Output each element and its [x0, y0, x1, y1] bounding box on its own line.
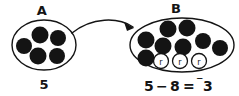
counter-dot [179, 20, 196, 37]
diagram-canvas: A 5 B [0, 0, 239, 96]
set-b-removed-counters: r r r [154, 54, 207, 69]
counter-dot [175, 39, 192, 56]
removed-counter: r [192, 54, 207, 69]
removed-counter: r [173, 54, 188, 69]
counter-dot [138, 32, 155, 49]
counter-dot [16, 38, 32, 54]
counter-dot [155, 38, 172, 55]
counter-dot [160, 21, 177, 38]
counter-dot [212, 40, 228, 56]
integer-subtraction-diagram: A 5 B [0, 0, 239, 96]
equation-operator: − [156, 78, 168, 94]
set-a-group: A 5 [12, 3, 76, 92]
equation-equals: = [183, 78, 195, 94]
equation-subtrahend: 8 [170, 78, 180, 94]
counter-dot [49, 48, 65, 64]
set-b-group: B r r [130, 1, 234, 72]
counter-dot [30, 48, 47, 65]
equation: 5 − 8 = ⁻ 3 [144, 73, 213, 94]
transfer-arrow [72, 20, 134, 33]
counter-dot [32, 27, 49, 44]
removed-counter: r [154, 54, 169, 69]
equation-result: 3 [203, 78, 213, 94]
arrow-shaft [72, 20, 133, 33]
set-a-count-label: 5 [39, 77, 48, 92]
set-a-label: A [37, 3, 47, 18]
counter-dot [138, 50, 155, 67]
counter-dot [195, 33, 211, 49]
set-a-counters [16, 27, 66, 65]
counter-dot [50, 30, 66, 46]
equation-minuend: 5 [144, 78, 154, 94]
set-b-label: B [171, 1, 181, 16]
